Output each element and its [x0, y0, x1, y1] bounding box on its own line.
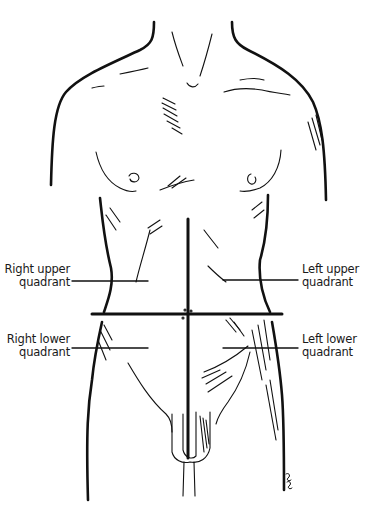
label-right-lower-quadrant: Right lower quadrant	[4, 333, 70, 359]
anatomy-details	[92, 32, 322, 496]
label-right-lower-line2: quadrant	[4, 346, 70, 359]
label-left-lower-quadrant: Left lower quadrant	[302, 333, 370, 359]
label-right-upper-quadrant: Right upper quadrant	[4, 263, 70, 289]
artist-signature	[286, 473, 292, 488]
label-right-upper-line2: quadrant	[4, 276, 70, 289]
abdominal-quadrants-figure	[0, 0, 371, 512]
label-left-upper-line2: quadrant	[302, 276, 370, 289]
label-left-upper-quadrant: Left upper quadrant	[302, 263, 370, 289]
label-left-lower-line2: quadrant	[302, 346, 370, 359]
